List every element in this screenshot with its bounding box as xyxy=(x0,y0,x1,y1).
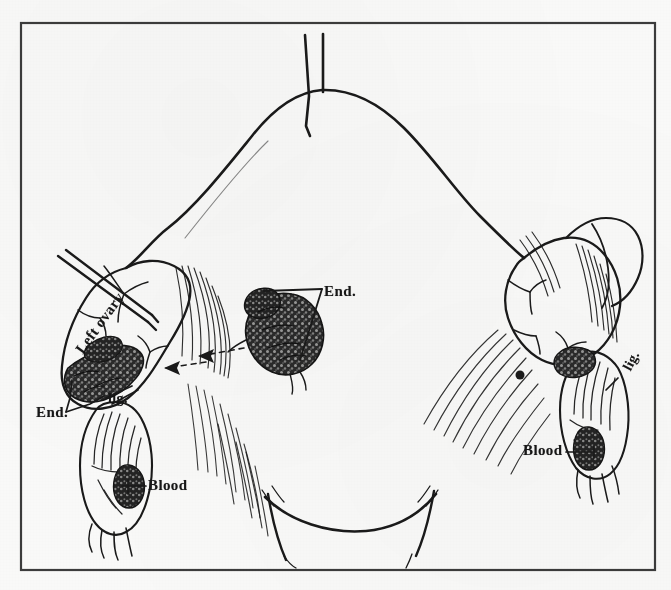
suture-threads xyxy=(305,34,323,136)
label-blood-left: Blood xyxy=(148,477,188,494)
label-end-left: End. xyxy=(36,404,68,421)
right-ligament-leaf xyxy=(566,218,643,306)
left-tube-blood-structure xyxy=(80,402,152,560)
center-endometriosis-implant xyxy=(228,288,324,394)
fundus-inner-contour xyxy=(185,141,268,238)
label-lig-left: lig. xyxy=(108,391,128,407)
label-end-center: End. xyxy=(324,283,356,300)
right-blood-pocket xyxy=(574,427,605,470)
transfer-arrows xyxy=(164,348,244,375)
figure-plate: End. lig. Blood Left ovary End. lig. Blo… xyxy=(0,0,671,590)
uterine-fundus-outline xyxy=(126,90,524,268)
right-vessel-node xyxy=(516,371,525,380)
right-tube-blood-structure xyxy=(554,347,629,504)
cervix-lower-segment xyxy=(262,486,438,568)
label-blood-right: Blood xyxy=(523,442,563,459)
left-ligament-hatching xyxy=(176,266,230,378)
